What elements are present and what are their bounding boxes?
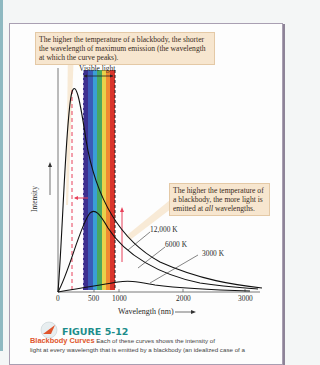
x-tick-0: 0 (56, 294, 60, 303)
y-axis-label: Intensity (30, 186, 39, 212)
callout-pointer (66, 50, 74, 205)
label-3000k: 3000 K (202, 249, 224, 258)
callout-peak-shift: The higher the temperature of a blackbod… (35, 32, 215, 65)
label-12000k: 12,000 K (150, 225, 178, 234)
x-axis-label: Wavelength (nm) (118, 307, 174, 316)
x-tick-500: 500 (88, 294, 99, 303)
figure-caption: Blackbody Curves Each of these curves sh… (30, 337, 280, 354)
x-tick-2000: 2000 (176, 294, 191, 303)
x-tick-1000: 1000 (112, 294, 127, 303)
visible-light-label: Visible light (79, 64, 115, 73)
callout-more-light: The higher the temperature of a blackbod… (169, 183, 270, 216)
caption-title: Blackbody Curves (30, 336, 95, 345)
x-tick-3000: 3000 (238, 294, 253, 303)
visible-spectrum-band (83, 70, 115, 290)
label-6000k: 6000 K (165, 240, 187, 249)
